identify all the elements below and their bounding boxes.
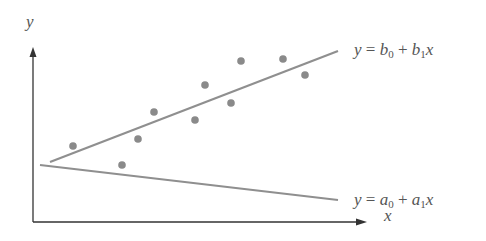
regression-lines: [40, 51, 338, 200]
eq-coef0: b: [380, 40, 389, 59]
eq-y: y: [354, 40, 362, 59]
data-point: [191, 116, 199, 124]
data-point: [227, 99, 235, 107]
data-point: [237, 57, 245, 65]
eq-coef1: b: [412, 40, 421, 59]
eq-equals: =: [366, 190, 376, 209]
upper-line-equation: y = b0 + b1x: [354, 40, 433, 60]
eq-y: y: [354, 190, 362, 209]
eq-plus: +: [398, 190, 408, 209]
alternative-line: [40, 165, 338, 200]
eq-sub0: 0: [388, 198, 394, 210]
data-point: [201, 81, 209, 89]
eq-plus: +: [398, 40, 408, 59]
data-point: [118, 161, 126, 169]
eq-equals: =: [366, 40, 376, 59]
data-point: [301, 71, 309, 79]
lower-line-equation: y = a0 + a1x: [354, 190, 433, 210]
eq-x: x: [426, 40, 434, 59]
eq-coef0: a: [380, 190, 389, 209]
y-axis-arrow-icon: [30, 47, 37, 57]
data-point: [150, 108, 158, 116]
eq-x: x: [426, 190, 434, 209]
data-point: [279, 55, 287, 63]
fitted-line: [50, 51, 338, 162]
eq-coef1: a: [412, 190, 421, 209]
eq-sub0: 0: [388, 48, 394, 60]
data-point: [134, 135, 142, 143]
x-axis-arrow-icon: [356, 219, 367, 226]
y-axis-label: y: [26, 12, 34, 32]
data-point: [69, 142, 77, 150]
axes: [30, 47, 368, 226]
data-points: [69, 55, 309, 169]
regression-diagram: y x y = b0 + b1x y = a0 + a1x: [0, 0, 486, 241]
